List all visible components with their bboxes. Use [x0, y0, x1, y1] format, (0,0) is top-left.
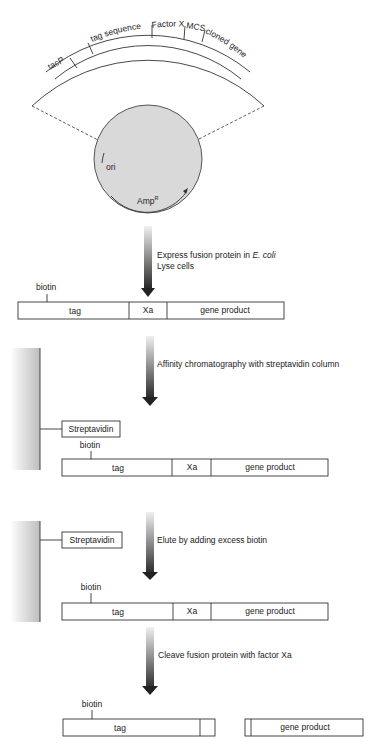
step-express-text: Express fusion protein in E. coli	[157, 250, 277, 260]
svg-text:Xa: Xa	[143, 305, 154, 315]
fusion-protein-eluted: biotin tag Xa gene product	[62, 582, 328, 620]
svg-text:gene product: gene product	[245, 462, 295, 472]
svg-text:gene product: gene product	[245, 606, 295, 616]
svg-text:biotin: biotin	[81, 582, 102, 592]
tag-fragment	[63, 719, 215, 736]
step-arrow-affinity	[142, 336, 158, 406]
segment-tag-sequence: tag sequence	[89, 21, 142, 44]
segment-mcs: MCS	[186, 20, 207, 33]
svg-text:gene product: gene product	[280, 722, 330, 732]
plasmid-circle: ori AmpR	[94, 105, 202, 213]
svg-text:tag: tag	[112, 463, 124, 473]
cleaved-products: biotin tag gene product	[63, 699, 363, 736]
step-affinity-text: Affinity chromatography with streptavidi…	[157, 359, 339, 369]
step-lyse-text: Lyse cells	[157, 261, 194, 271]
svg-text:Xa: Xa	[187, 606, 198, 616]
fusion-protein-purification-diagram: tacP tag sequence Factor Xa MCS cloned g…	[0, 0, 376, 746]
segment-factor-xa: Factor Xa	[0, 0, 185, 30]
segment-tacp: tacP	[46, 54, 66, 71]
ori-label: ori	[106, 162, 116, 172]
svg-text:tag: tag	[69, 306, 81, 316]
svg-text:tag: tag	[114, 723, 126, 733]
svg-text:biotin: biotin	[82, 699, 103, 709]
svg-text:gene product: gene product	[200, 305, 250, 315]
streptavidin-label: Streptavidin	[69, 424, 114, 434]
segment-cloned-gene: cloned gene	[204, 26, 249, 60]
step-cleave-text: Cleave fusion protein with factor Xa	[158, 650, 292, 660]
step-elute-text: Elute by adding excess biotin	[157, 535, 267, 545]
svg-text:tag: tag	[112, 607, 124, 617]
step-arrow-elute	[142, 512, 158, 580]
svg-text:biotin: biotin	[80, 440, 101, 450]
step-arrow-cleave	[142, 627, 158, 695]
svg-text:Streptavidin: Streptavidin	[70, 535, 115, 545]
step-arrow-express	[141, 226, 155, 297]
svg-text:Xa: Xa	[187, 462, 198, 472]
biotin-label: biotin	[36, 282, 57, 292]
